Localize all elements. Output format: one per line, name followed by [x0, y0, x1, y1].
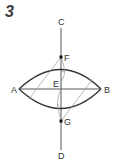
geometry-diagram: C F E A B G D [0, 0, 114, 160]
label-c: C [58, 17, 65, 27]
label-a: A [11, 85, 17, 95]
label-d: D [58, 151, 65, 160]
label-g: G [64, 117, 71, 127]
point-g-marker [60, 120, 63, 123]
label-b: B [104, 85, 110, 95]
construction-curve-eg [57, 89, 61, 121]
upper-arc [19, 70, 101, 90]
label-f: F [64, 53, 70, 63]
label-e: E [53, 79, 59, 89]
point-f-marker [60, 56, 63, 59]
